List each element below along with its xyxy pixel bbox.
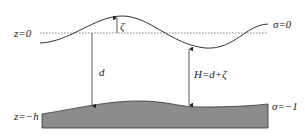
- label-sigma-bottom: σ=−1: [272, 100, 298, 112]
- seabed-region: [42, 101, 268, 128]
- label-zeta: ζ: [120, 20, 126, 33]
- label-H: H=d+ζ: [193, 68, 228, 81]
- label-sigma-top: σ=0: [273, 18, 292, 30]
- label-d: d: [99, 66, 105, 78]
- sigma-coordinate-diagram: z=0 z=−h σ=0 σ=−1 ζ d H=d+ζ: [0, 0, 305, 136]
- label-z-bottom: z=−h: [13, 110, 39, 122]
- free-surface-curve: [40, 16, 268, 48]
- label-z-surface: z=0: [13, 27, 32, 39]
